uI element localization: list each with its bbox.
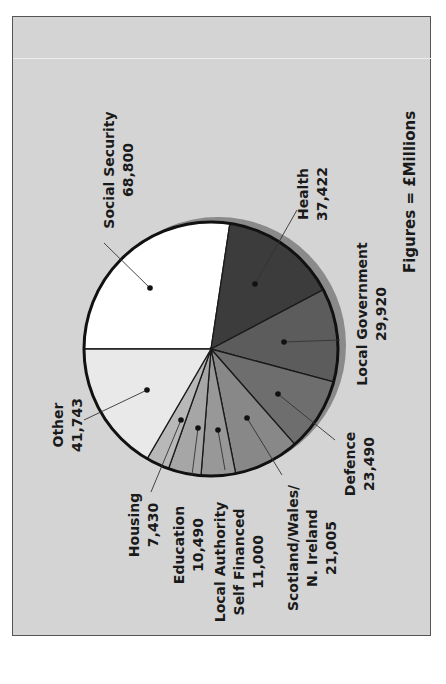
label-value: 7,430 [145,503,161,548]
label-value: 37,422 [314,167,330,221]
leader-dot [275,391,281,397]
label-value: 41,743 [69,398,85,452]
leader-dot [215,427,221,433]
label-social-security: Social Security 68,800 [101,111,136,228]
pie-chart: Social Security 68,800 Health 37,422 Loc… [0,0,446,684]
label-local-authority: Local Authority Self Financed 11,000 [212,502,266,623]
label-housing: Housing 7,430 [126,493,161,557]
leader-dot [147,285,153,291]
units-note: Figures = £Millions [401,111,419,273]
leader-dot [144,387,150,393]
label-line2: Self Financed [231,509,247,616]
leader-dot [244,415,250,421]
label-value: 10,490 [190,518,206,572]
label-value: 23,490 [361,437,377,491]
label-line2: N. Ireland [304,509,320,587]
label-line1: Scotland/Wales/ [285,484,301,611]
label-defence: Defence 23,490 [342,432,377,496]
label-name: Education [171,506,187,584]
label-name: Defence [342,432,358,496]
label-other: Other 41,743 [50,398,85,452]
label-education: Education 10,490 [171,506,206,584]
label-value: 21,005 [323,521,339,575]
label-line1: Local Authority [212,502,228,623]
label-name: Local Government [354,242,370,386]
label-value: 29,920 [373,287,389,341]
label-name: Other [50,402,66,447]
leader-dot [178,417,184,423]
label-local-government: Local Government 29,920 [354,242,389,386]
label-scotland-wales-ni: Scotland/Wales/ N. Ireland 21,005 [285,484,339,611]
label-name: Social Security [101,111,117,228]
label-name: Housing [126,493,142,557]
label-value: 11,000 [250,535,266,589]
label-value: 68,800 [120,143,136,197]
leader-dot [281,339,287,345]
units-note-text: Figures = £Millions [401,111,419,273]
leader-dot [195,425,201,431]
leader-dot [252,281,258,287]
pie-slice-social-security [84,222,230,349]
label-health: Health 37,422 [295,167,330,221]
label-name: Health [295,168,311,220]
